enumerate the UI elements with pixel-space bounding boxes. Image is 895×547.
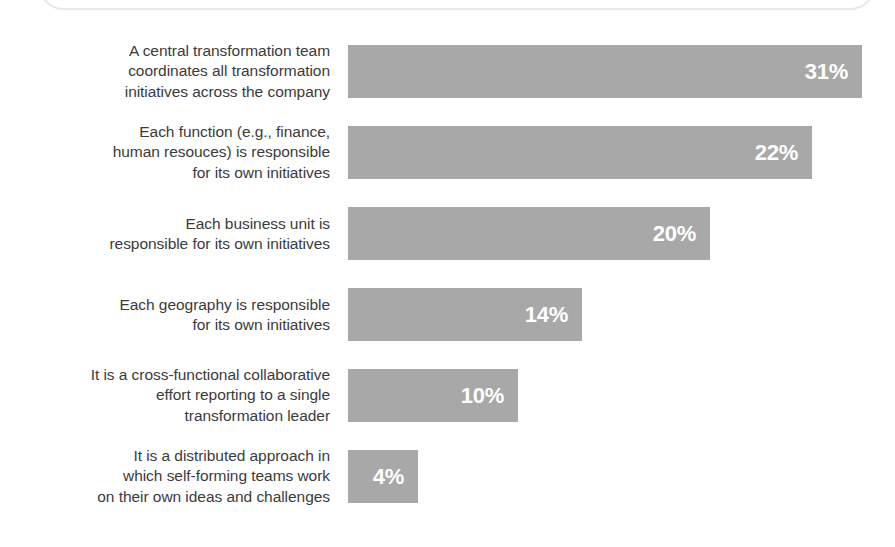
chart-row: Each geography is responsible for its ow… — [0, 288, 895, 341]
category-label: Each business unit is responsible for it… — [0, 213, 330, 254]
bar-track: 14% — [348, 288, 878, 341]
chart-row: Each function (e.g., finance, human reso… — [0, 126, 895, 179]
bar: 20% — [348, 207, 710, 260]
bar-track: 10% — [348, 369, 878, 422]
category-label: Each function (e.g., finance, human reso… — [0, 122, 330, 184]
chart-row: Each business unit is responsible for it… — [0, 207, 895, 260]
bar-value-label: 22% — [755, 142, 812, 164]
bar-track: 22% — [348, 126, 878, 179]
bar-value-label: 4% — [373, 466, 418, 488]
chart-row: It is a cross-functional collaborative e… — [0, 369, 895, 422]
category-label: It is a distributed approach in which se… — [0, 446, 330, 508]
category-label: It is a cross-functional collaborative e… — [0, 365, 330, 427]
category-label: A central transformation team coordinate… — [0, 41, 330, 103]
chart-page: A central transformation team coordinate… — [0, 0, 895, 547]
bar-value-label: 14% — [525, 304, 582, 326]
bar-value-label: 20% — [653, 223, 710, 245]
bar: 10% — [348, 369, 518, 422]
bar: 14% — [348, 288, 582, 341]
bar: 4% — [348, 450, 418, 503]
bar-track: 4% — [348, 450, 878, 503]
category-label: Each geography is responsible for its ow… — [0, 294, 330, 335]
bar-value-label: 31% — [805, 61, 862, 83]
bar: 22% — [348, 126, 812, 179]
horizontal-bar-chart: A central transformation team coordinate… — [0, 0, 895, 547]
bar: 31% — [348, 45, 862, 98]
chart-row: A central transformation team coordinate… — [0, 45, 895, 98]
bar-value-label: 10% — [461, 385, 518, 407]
bar-track: 31% — [348, 45, 878, 98]
bar-track: 20% — [348, 207, 878, 260]
chart-row: It is a distributed approach in which se… — [0, 450, 895, 503]
